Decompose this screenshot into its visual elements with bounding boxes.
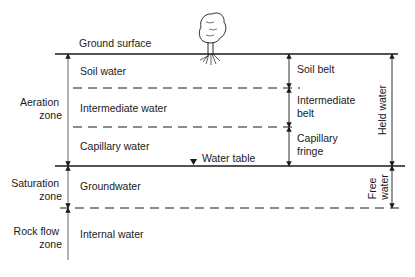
intermediate-belt-label: Intermediate belt [297, 94, 358, 119]
aeration-zone-label: Aeration zone [20, 96, 62, 121]
capillary-water-label: Capillary water [80, 140, 150, 152]
ground-surface-label: Ground surface [79, 37, 152, 49]
water-table-label: Water table [202, 152, 255, 164]
free-water-label: Free water [366, 174, 390, 201]
rock-flow-zone-label: Rock flow zone [14, 225, 63, 250]
groundwater-label: Groundwater [80, 180, 141, 192]
water-table-marker-icon [190, 159, 197, 165]
soil-water-label: Soil water [80, 65, 127, 77]
groundwater-zones-diagram: Ground surface Water table Aeration zone… [0, 0, 415, 277]
saturation-zone-label: Saturation zone [11, 177, 62, 202]
soil-belt-label: Soil belt [297, 63, 334, 75]
capillary-fringe-label: Capillary fringe [297, 132, 341, 157]
held-water-label: Held water [376, 84, 388, 135]
tree-icon [199, 13, 225, 65]
intermediate-water-label: Intermediate water [80, 102, 167, 114]
internal-water-label: Internal water [80, 228, 144, 240]
